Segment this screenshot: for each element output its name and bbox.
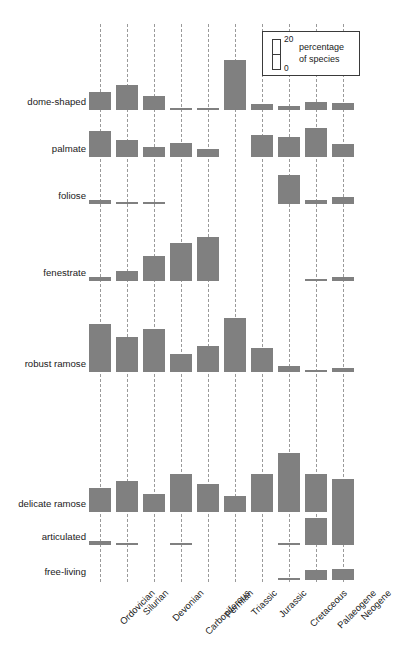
x-tick-label: Jurassic (277, 588, 308, 619)
legend-scale-bar-icon (272, 39, 281, 70)
row-label: free-living (44, 566, 86, 577)
legend-scale-tick-icon (273, 54, 280, 55)
bar (278, 578, 300, 580)
legend-label-line1: percentage (299, 42, 344, 54)
bar (305, 570, 327, 580)
x-axis-labels: OrdovicianSilurianDevonianCarboniferousP… (0, 588, 368, 668)
x-tick-label: Devonian (171, 588, 206, 623)
legend-scale-min: 0 (284, 64, 289, 73)
plot-area: dome-shapedpalmatefoliosefenestraterobus… (0, 0, 368, 600)
legend-label: percentage of species (299, 42, 344, 65)
legend-label-line2: of species (299, 54, 344, 66)
chart-row: free-living (0, 0, 368, 600)
legend: 20 0 percentage of species (262, 31, 360, 76)
bar (332, 569, 354, 580)
x-tick-label: Triassic (249, 588, 279, 618)
legend-scale-max: 20 (284, 35, 293, 44)
